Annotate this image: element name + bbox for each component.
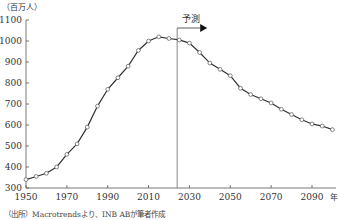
data-point-marker <box>126 64 130 68</box>
forecast-annotation: 予測 <box>177 13 207 188</box>
y-axis-unit-label: （百万人） <box>2 3 42 12</box>
data-point-marker <box>310 122 314 126</box>
data-point-marker <box>177 38 181 42</box>
data-point-marker <box>259 97 263 101</box>
y-tick-label: 1000 <box>0 36 22 46</box>
y-tick-label: 800 <box>5 78 22 88</box>
y-tick-label: 400 <box>5 162 22 172</box>
x-axis-unit-label: 年 <box>330 192 338 202</box>
data-point-marker <box>320 124 324 128</box>
y-tick-label: 700 <box>5 99 22 109</box>
data-point-marker <box>34 175 38 179</box>
y-tick-label: 600 <box>5 120 22 130</box>
data-point-marker <box>106 87 110 91</box>
data-point-marker <box>218 67 222 71</box>
data-point-marker <box>239 86 243 90</box>
data-point-marker <box>75 142 79 146</box>
x-tick-label: 2050 <box>219 192 242 202</box>
source-note: （出所）Macrotrendsより、INB ABが筆者作成 <box>4 209 166 219</box>
data-point-marker <box>24 178 28 182</box>
population-line <box>26 37 332 180</box>
data-point-marker <box>279 107 283 111</box>
forecast-label: 予測 <box>182 13 200 24</box>
axes: 3004005006007008009001000110019501970199… <box>0 15 338 202</box>
y-tick-label: 1100 <box>0 15 22 25</box>
data-point-marker <box>136 49 140 53</box>
x-tick-label: 1950 <box>15 192 38 202</box>
data-point-marker <box>300 118 304 122</box>
x-tick-label: 1990 <box>96 192 119 202</box>
data-point-marker <box>45 171 49 175</box>
y-tick-label: 900 <box>5 57 22 67</box>
line-chart: 3004005006007008009001000110019501970199… <box>0 0 340 220</box>
data-point-marker <box>331 128 335 132</box>
data-point-marker <box>290 113 294 117</box>
data-point-marker <box>208 61 212 65</box>
data-point-marker <box>147 39 151 43</box>
y-tick-label: 500 <box>5 141 22 151</box>
data-point-marker <box>96 104 100 108</box>
data-point-marker <box>65 153 69 157</box>
data-point-marker <box>188 41 192 45</box>
x-tick-label: 2010 <box>137 192 160 202</box>
data-point-marker <box>228 74 232 78</box>
arrow-right-icon <box>200 24 207 32</box>
data-point-marker <box>157 35 161 39</box>
data-point-marker <box>269 101 273 105</box>
data-point-marker <box>85 125 89 129</box>
x-tick-label: 2030 <box>178 192 201 202</box>
data-point-marker <box>198 51 202 55</box>
data-point-marker <box>55 165 59 169</box>
x-tick-label: 2070 <box>260 192 283 202</box>
data-point-marker <box>116 76 120 80</box>
data-point-marker <box>167 37 171 41</box>
plot-area <box>24 35 334 182</box>
data-point-marker <box>249 93 253 97</box>
x-tick-label: 2090 <box>301 192 324 202</box>
x-tick-label: 1970 <box>55 192 78 202</box>
